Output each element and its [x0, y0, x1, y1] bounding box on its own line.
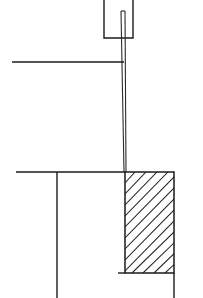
page-background	[0, 0, 203, 298]
technical-drawing	[0, 0, 203, 298]
drawing-canvas	[0, 0, 203, 298]
